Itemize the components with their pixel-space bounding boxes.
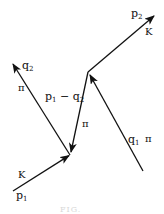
momentum-diagram: [0, 0, 164, 214]
label-q2-sub: 2: [29, 65, 33, 73]
figure-caption: FIG.: [60, 205, 81, 214]
label-internal-momentum: p1 − q2: [45, 91, 84, 104]
label-internal-q: q: [73, 90, 80, 103]
label-p2: p2: [131, 8, 143, 21]
label-internal-p: p: [45, 90, 52, 103]
label-q2: q2: [22, 60, 34, 73]
label-p1-base: p: [16, 189, 23, 202]
label-p2-sub: 2: [138, 13, 142, 21]
line-q2-pion: [13, 64, 70, 155]
label-q2-base: q: [22, 59, 29, 72]
label-k-top: K: [145, 27, 152, 37]
label-pi-q2: π: [18, 83, 25, 93]
label-k-bottom: K: [18, 170, 25, 180]
label-internal-minus: −: [57, 90, 73, 103]
label-q1-base: q: [128, 133, 135, 146]
label-p1-sub: 1: [23, 195, 27, 203]
label-q1-sub: 1: [135, 139, 139, 147]
label-p2-base: p: [131, 7, 138, 20]
label-internal-q-sub: 2: [80, 96, 84, 104]
label-p1: p1: [16, 190, 28, 203]
line-p2-kaon: [88, 16, 154, 72]
label-q1: q1: [128, 134, 140, 147]
line-internal-pion: [71, 72, 88, 152]
label-pi-q1: π: [145, 134, 152, 144]
label-pi-internal: π: [82, 119, 89, 129]
line-q1-pion: [90, 75, 143, 171]
